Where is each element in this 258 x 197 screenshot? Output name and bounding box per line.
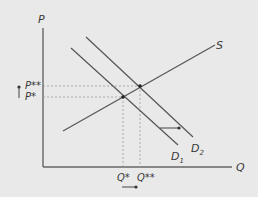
- equilibrium-new: [138, 84, 142, 88]
- equilibrium-initial: [121, 95, 125, 99]
- d1-sub: 1: [179, 157, 183, 165]
- demand-d1-label: D1: [171, 150, 184, 165]
- quantity-initial-label: Q*: [117, 172, 130, 183]
- demand-d2-label: D2: [191, 142, 204, 157]
- d1-main: D: [171, 150, 179, 163]
- quantity-new-label: Q**: [137, 172, 155, 183]
- supply-curve: [63, 45, 215, 131]
- y-axis-label: P: [38, 13, 45, 26]
- d2-sub: 2: [199, 149, 204, 157]
- price-new-label: P**: [25, 80, 41, 91]
- curves: [63, 37, 215, 145]
- x-axis-label: Q: [236, 161, 245, 174]
- axes: P Q: [38, 13, 245, 174]
- price-initial-label: P*: [25, 91, 36, 102]
- supply-demand-diagram: P Q S D1 D2 P** P*: [0, 0, 258, 197]
- d2-main: D: [191, 142, 199, 155]
- supply-label: S: [216, 39, 223, 52]
